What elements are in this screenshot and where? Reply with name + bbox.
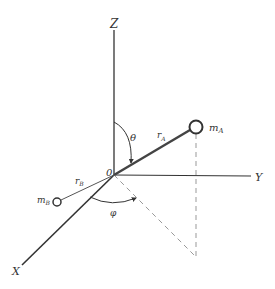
mass-a-label: mA: [209, 122, 224, 135]
phi-arc: [90, 197, 136, 203]
x-axis-label: X: [11, 265, 21, 278]
theta-arc: [114, 122, 131, 163]
diagram-canvas: Z Y X 0 θ φ mA mB rA rB: [0, 0, 275, 289]
y-axis-label: Y: [255, 171, 264, 184]
z-axis-label: Z: [109, 17, 119, 31]
mass-b-sphere: [53, 198, 61, 206]
theta-label: θ: [130, 132, 136, 143]
projection-line-ground: [114, 175, 196, 257]
mass-a-sphere: [190, 121, 203, 134]
r-a-label: rA: [157, 130, 166, 142]
r-b-label: rB: [75, 176, 84, 187]
phi-label: φ: [110, 208, 117, 218]
y-axis: [114, 175, 251, 176]
x-axis: [22, 175, 114, 265]
rod-r-b: [61, 175, 114, 200]
mass-b-label: mB: [37, 195, 51, 206]
rod-r-a: [114, 130, 190, 175]
origin-label: 0: [106, 167, 113, 178]
